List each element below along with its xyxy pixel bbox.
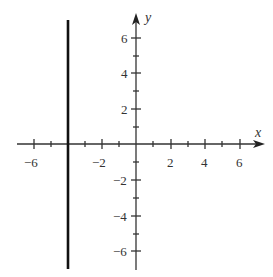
y-tick-label: 6 [121,31,128,46]
y-axis-label: y [143,10,152,25]
y-tick-label: −2 [113,173,127,188]
y-tick-label: 2 [121,102,128,117]
x-axis-label: x [254,125,262,140]
x-tick-label: 2 [167,155,174,170]
chart-canvas: x y −6 −2 2 4 6 6 4 2 −2 −4 −6 [0,0,273,277]
y-tick-label: 4 [121,66,128,81]
coordinate-plane: x y −6 −2 2 4 6 6 4 2 −2 −4 −6 [0,0,273,277]
x-tick-label: −2 [92,155,106,170]
y-tick-label: −4 [113,209,127,224]
x-tick-label: 6 [236,155,243,170]
x-tick-label: 4 [201,155,208,170]
y-tick-label: −6 [113,244,127,259]
x-tick-label: −6 [24,155,38,170]
